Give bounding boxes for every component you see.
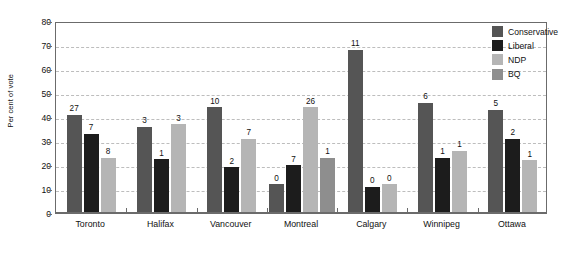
bar-item[interactable]: 2 (224, 23, 239, 213)
y-tick-label: 60 (5, 65, 51, 75)
bar[interactable] (452, 151, 467, 213)
bar-item[interactable]: 8 (101, 23, 116, 213)
bar-item[interactable]: 26 (303, 23, 318, 213)
legend-item[interactable]: Conservative (492, 26, 558, 37)
bar-value-label: 0 (387, 174, 392, 183)
legend-item[interactable]: NDP (492, 54, 558, 65)
legend-label: BQ (508, 69, 520, 79)
bar[interactable] (269, 184, 284, 213)
bar-item[interactable]: 7 (84, 23, 99, 213)
y-tick-label: 70 (5, 41, 51, 51)
x-axis-label: Vancouver (210, 219, 251, 229)
x-axis-label: Halifax (147, 219, 174, 229)
bar[interactable] (224, 167, 239, 213)
bar[interactable] (435, 158, 450, 213)
bar[interactable] (67, 115, 82, 213)
bar-value-label: 7 (246, 128, 251, 137)
bar[interactable] (348, 50, 363, 213)
bar-item[interactable]: 7 (241, 23, 256, 213)
bar-value-label: 1 (457, 140, 462, 149)
bar-value-label: 26 (306, 97, 315, 106)
bar-group-bars: 2778 (56, 23, 126, 213)
bar-group: 1100 (337, 23, 407, 213)
bar-item[interactable]: 0 (365, 23, 380, 213)
bar-item[interactable]: 3 (137, 23, 152, 213)
bar[interactable] (84, 134, 99, 213)
bar[interactable] (505, 139, 520, 213)
bar-item[interactable]: 0 (382, 23, 397, 213)
legend-swatch-icon (492, 69, 503, 80)
bar[interactable] (418, 103, 433, 213)
x-axis-label: Winnipeg (423, 219, 460, 229)
x-axis-label: Calgary (356, 219, 386, 229)
bar-value-label: 1 (440, 147, 445, 156)
y-tick-label: 20 (5, 161, 51, 171)
bar[interactable] (207, 107, 222, 213)
bar[interactable] (137, 127, 152, 213)
bar-item[interactable]: 6 (418, 23, 433, 213)
bar-value-label: 1 (159, 149, 164, 158)
bar-item[interactable]: 1 (452, 23, 467, 213)
legend-item[interactable]: Liberal (492, 40, 558, 51)
bar-item[interactable]: 11 (348, 23, 363, 213)
bar[interactable] (382, 184, 397, 213)
bar-chart: Per cent of vote 01020304050607080 27783… (0, 0, 584, 253)
bar-item[interactable]: 1 (435, 23, 450, 213)
bar-group: 2778 (56, 23, 126, 213)
y-tick-label: 80 (5, 17, 51, 27)
y-tick-mark (47, 142, 52, 143)
bar[interactable] (286, 165, 301, 213)
bar[interactable] (303, 107, 318, 213)
bar-groups: 27783131027072611100611521 (56, 23, 546, 213)
y-tick-label: 10 (5, 185, 51, 195)
legend-swatch-icon (492, 40, 503, 51)
bar-item[interactable]: 7 (286, 23, 301, 213)
bar-group-bars: 313 (126, 23, 196, 213)
plot-area: 27783131027072611100611521 (55, 22, 547, 214)
legend-label: Conservative (508, 27, 558, 37)
bar[interactable] (488, 110, 503, 213)
bar-item[interactable]: 1 (154, 23, 169, 213)
legend-item[interactable]: BQ (492, 69, 558, 80)
bar-value-label: 10 (210, 97, 219, 106)
bar-group-bars: 1027 (197, 23, 267, 213)
bar-item[interactable]: 1 (320, 23, 335, 213)
bar-value-label: 2 (511, 128, 516, 137)
bar-value-label: 27 (70, 104, 79, 113)
y-tick-mark (47, 94, 52, 95)
bar-value-label: 3 (142, 116, 147, 125)
bar[interactable] (171, 124, 186, 213)
bar-value-label: 1 (528, 150, 533, 159)
bar-group-bars: 611 (407, 23, 477, 213)
bar-value-label: 11 (351, 39, 360, 48)
x-axis-label: Ottawa (498, 219, 526, 229)
bar-value-label: 5 (494, 99, 499, 108)
bar[interactable] (365, 187, 380, 213)
legend-swatch-icon (492, 54, 503, 65)
bar-group: 07261 (267, 23, 337, 213)
bar[interactable] (241, 139, 256, 213)
y-tick-mark (47, 190, 52, 191)
bar-item[interactable]: 0 (269, 23, 284, 213)
bar-group: 1027 (197, 23, 267, 213)
bar-value-label: 0 (370, 176, 375, 185)
bar-group: 313 (126, 23, 196, 213)
legend-label: Liberal (508, 41, 534, 51)
bar-value-label: 8 (106, 147, 111, 156)
y-tick-mark (47, 46, 52, 47)
bar-group-bars: 1100 (337, 23, 407, 213)
bar-group-bars: 07261 (267, 23, 337, 213)
bar-item[interactable]: 10 (207, 23, 222, 213)
bar-item[interactable]: 27 (67, 23, 82, 213)
y-tick-label: 0 (5, 209, 51, 219)
y-tick-label: 40 (5, 113, 51, 123)
y-tick-mark (47, 22, 52, 23)
y-tick-label: 50 (5, 89, 51, 99)
y-tick-mark (47, 118, 52, 119)
bar[interactable] (101, 158, 116, 213)
bar-value-label: 7 (291, 155, 296, 164)
bar[interactable] (154, 159, 169, 213)
bar[interactable] (522, 160, 537, 213)
bar[interactable] (320, 158, 335, 213)
bar-item[interactable]: 3 (171, 23, 186, 213)
